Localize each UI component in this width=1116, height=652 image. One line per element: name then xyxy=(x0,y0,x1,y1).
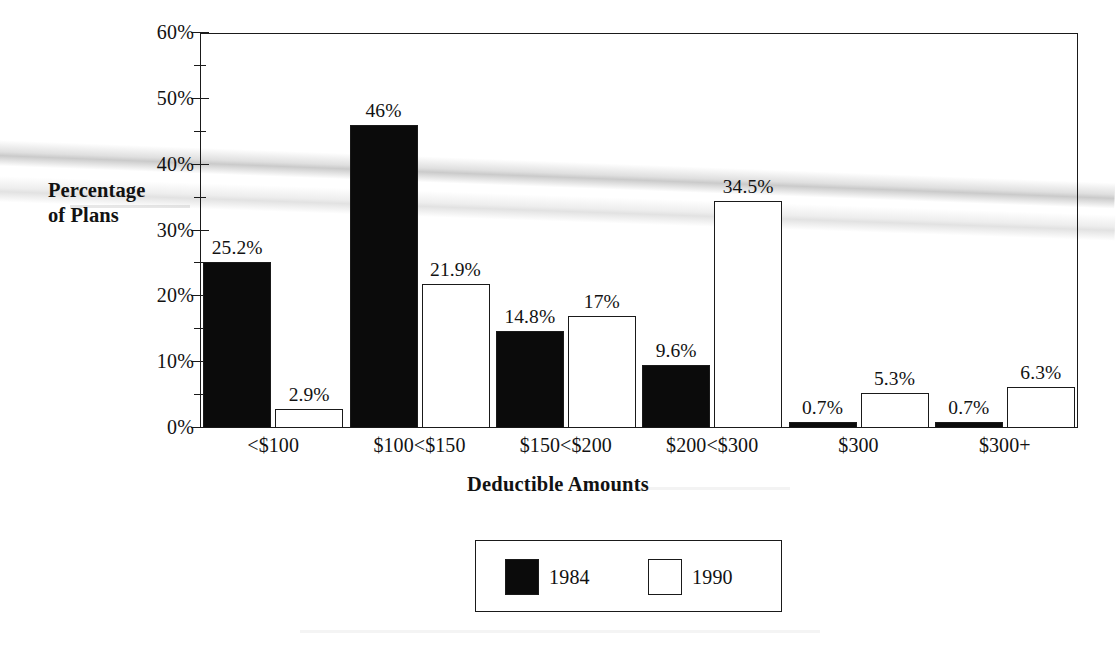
bar-1984-$300 xyxy=(789,422,857,428)
bar-1990-$150<$200 xyxy=(568,316,636,428)
bar-value-label: 5.3% xyxy=(839,368,951,390)
bar-value-label: 2.9% xyxy=(253,384,365,406)
x-axis-title: Deductible Amounts xyxy=(0,473,1116,496)
legend-label-1990: 1990 xyxy=(692,566,733,589)
y-axis-tick-label: 10% xyxy=(114,351,194,371)
bar-value-label: 25.2% xyxy=(181,237,293,259)
y-axis-tick-label: 40% xyxy=(114,154,194,174)
legend: 1984 1990 xyxy=(475,540,782,612)
bar-1990-$200<$300 xyxy=(714,201,782,428)
bar-value-label: 21.9% xyxy=(400,259,512,281)
legend-item-1984: 1984 xyxy=(505,559,590,595)
legend-label-1984: 1984 xyxy=(549,566,590,589)
legend-item-1990: 1990 xyxy=(648,559,733,595)
bar-1990-<$100 xyxy=(275,409,343,428)
bar-value-label: 6.3% xyxy=(985,362,1097,384)
bar-value-label: 17% xyxy=(546,291,658,313)
legend-swatch-1990 xyxy=(648,559,682,595)
y-axis-tick-label: 20% xyxy=(114,285,194,305)
scan-speck xyxy=(300,630,820,633)
x-axis-category-label: $300+ xyxy=(912,434,1098,457)
bar-1984-$300+ xyxy=(935,422,1003,428)
y-axis-tick-label: 50% xyxy=(114,88,194,108)
bar-1984-$150<$200 xyxy=(496,331,564,428)
bar-1990-$300+ xyxy=(1007,387,1075,428)
legend-swatch-1984 xyxy=(505,559,539,595)
y-axis-title-line-1: Percentage xyxy=(48,178,198,203)
y-axis-tick-label: 60% xyxy=(114,22,194,42)
bar-value-label: 34.5% xyxy=(692,176,804,198)
bar-1984-$200<$300 xyxy=(642,365,710,428)
bar-value-label: 46% xyxy=(328,100,440,122)
